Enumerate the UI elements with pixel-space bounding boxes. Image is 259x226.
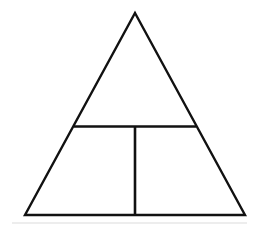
triangle-diagram — [0, 0, 259, 226]
figure-canvas: Triangle divided by a horizontal chord a… — [0, 0, 259, 226]
figure-background — [0, 0, 259, 226]
